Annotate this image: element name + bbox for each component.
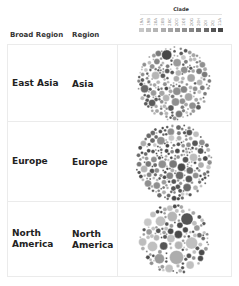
bubble[interactable] [170,156,173,159]
bubble[interactable] [177,179,180,182]
bubble[interactable] [193,96,195,98]
bubble[interactable] [150,212,156,218]
bubble[interactable] [168,180,171,183]
bubble[interactable] [206,165,211,170]
bubble[interactable] [171,114,174,117]
bubble[interactable] [200,136,202,138]
bubble[interactable] [165,107,168,110]
bubble[interactable] [183,271,186,274]
bubble[interactable] [181,77,185,81]
bubble[interactable] [167,152,170,155]
bubble[interactable] [163,207,167,211]
bubble[interactable] [154,168,159,173]
bubble[interactable] [160,73,165,78]
bubble[interactable] [169,160,177,168]
bubble[interactable] [189,152,191,154]
bubble[interactable] [156,216,166,226]
bubble[interactable] [196,65,199,68]
bubble[interactable] [177,197,181,201]
bubble[interactable] [170,48,172,50]
bubble-pack[interactable] [118,122,231,202]
bubble[interactable] [158,177,161,180]
bubble[interactable] [139,174,143,178]
bubble[interactable] [149,99,156,106]
bubble[interactable] [153,112,156,115]
bubble[interactable] [180,154,183,157]
bubble[interactable] [188,162,190,164]
bubble[interactable] [203,156,208,161]
bubble[interactable] [200,85,205,90]
bubble[interactable] [189,58,193,62]
bubble[interactable] [155,191,157,193]
bubble[interactable] [162,133,165,136]
bubble[interactable] [141,166,148,173]
bubble[interactable] [199,57,201,59]
bubble[interactable] [167,128,174,135]
bubble[interactable] [181,66,188,73]
bubble[interactable] [176,84,178,86]
bubble[interactable] [139,158,142,161]
bubble[interactable] [156,153,158,155]
bubble[interactable] [189,91,191,93]
bubble[interactable] [154,68,157,71]
bubble[interactable] [202,222,206,226]
legend-swatch[interactable] [161,28,166,32]
bubble[interactable] [191,109,195,113]
bubble[interactable] [137,162,142,167]
bubble[interactable] [172,98,180,106]
bubble[interactable] [155,51,161,57]
bubble[interactable] [189,65,191,67]
bubble[interactable] [183,154,185,156]
bubble[interactable] [191,161,193,163]
bubble[interactable] [151,166,153,168]
bubble[interactable] [152,96,154,98]
bubble[interactable] [198,157,202,161]
bubble[interactable] [162,170,164,172]
legend-swatch[interactable] [196,28,201,32]
bubble[interactable] [145,180,152,187]
bubble[interactable] [150,138,155,143]
legend-swatch[interactable] [189,28,194,32]
bubble[interactable] [142,228,146,232]
bubble[interactable] [196,167,199,170]
bubble[interactable] [145,157,149,161]
bubble[interactable] [153,182,160,189]
bubble[interactable] [178,85,181,88]
bubble[interactable] [188,209,191,212]
bubble[interactable] [165,144,169,148]
bubble[interactable] [158,150,160,152]
bubble[interactable] [154,233,156,235]
bubble[interactable] [192,230,195,233]
bubble[interactable] [140,141,146,147]
bubble[interactable] [193,131,199,137]
bubble[interactable] [186,167,193,174]
bubble[interactable] [189,231,192,234]
bubble[interactable] [195,147,198,150]
bubble[interactable] [162,50,172,60]
bubble[interactable] [147,61,151,65]
legend-swatch[interactable] [182,28,187,32]
bubble[interactable] [206,241,208,243]
bubble[interactable] [185,93,193,101]
bubble[interactable] [151,149,155,153]
bubble[interactable] [177,131,181,135]
bubble[interactable] [158,98,161,101]
bubble[interactable] [193,57,197,61]
column-header-broad-region[interactable]: Broad Region [10,31,63,39]
bubble[interactable] [170,168,174,172]
bubble[interactable] [182,116,184,118]
bubble[interactable] [155,87,157,89]
bubble[interactable] [163,95,170,102]
bubble[interactable] [196,190,199,193]
bubble[interactable] [149,253,152,256]
bubble[interactable] [150,234,154,238]
legend-swatch[interactable] [175,28,180,32]
bubble[interactable] [197,102,200,105]
bubble[interactable] [171,147,173,149]
bubble[interactable] [193,86,198,91]
bubble[interactable] [139,238,147,246]
bubble[interactable] [174,172,176,174]
bubble[interactable] [196,68,202,74]
bubble[interactable] [170,68,172,70]
bubble[interactable] [193,185,198,190]
